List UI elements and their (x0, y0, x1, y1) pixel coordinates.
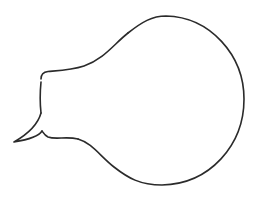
bubble-tail (14, 113, 42, 142)
bubble-lower-neck (42, 131, 78, 139)
bubble-left-edge (40, 82, 41, 113)
diagram-canvas (0, 0, 260, 198)
speech-bubble-figure (0, 0, 260, 198)
bubble-body (78, 16, 244, 185)
bubble-upper-neck (41, 33, 128, 79)
